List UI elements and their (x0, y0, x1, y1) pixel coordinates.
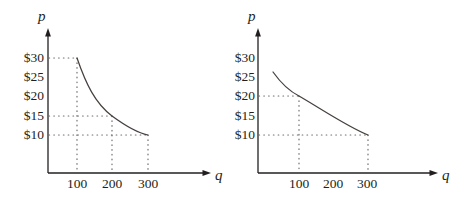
x-axis-label-left: q (215, 168, 223, 183)
figure-two-demand-curves: p q $30 $25 $20 $15 $10 100 200 300 (0, 0, 466, 204)
chart-panel-left: p q $30 $25 $20 $15 $10 100 200 300 (0, 0, 233, 204)
y-tick-label-20-left: $20 (0, 89, 44, 103)
x-tick-label-300-left: 300 (126, 177, 170, 191)
y-axis-right (255, 28, 261, 173)
x-tick-label-300-right: 300 (345, 177, 389, 191)
chart-right-canvas (233, 0, 466, 204)
y-tick-label-10-left: $10 (0, 128, 44, 142)
x-axis-label-right: q (442, 168, 450, 183)
y-tick-label-20-right: $20 (211, 89, 255, 103)
y-axis-left (45, 28, 51, 173)
guide-lines-horizontal-right (259, 96, 368, 135)
y-tick-label-15-right: $15 (211, 109, 255, 123)
y-axis-label-right: p (248, 9, 256, 24)
guide-lines-vertical-left (77, 58, 148, 172)
y-tick-label-30-right: $30 (211, 51, 255, 65)
y-tick-label-25-left: $25 (0, 70, 44, 84)
y-axis-label-left: p (38, 9, 46, 24)
y-tick-label-30-left: $30 (0, 51, 44, 65)
demand-curve-path-right (273, 72, 368, 135)
y-tick-label-15-left: $15 (0, 109, 44, 123)
y-tick-label-25-right: $25 (211, 70, 255, 84)
chart-panel-right: p q $30 $25 $20 $15 $10 100 200 300 (233, 0, 466, 204)
guide-lines-horizontal-left (49, 58, 148, 135)
demand-curve-path-left (77, 58, 148, 135)
guide-lines-vertical-right (299, 96, 368, 172)
y-tick-label-10-right: $10 (211, 128, 255, 142)
x-axis-right (258, 170, 438, 176)
